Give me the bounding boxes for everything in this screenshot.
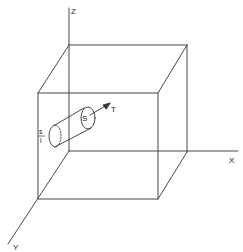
box-edge-bottom-right — [158, 152, 187, 199]
cylinder-near-end-hidden — [55, 125, 61, 147]
t-vector-label: T — [111, 105, 116, 114]
z-axis-label: Z — [71, 7, 76, 16]
side-label-bottom: l — [40, 137, 42, 144]
y-axis-label: Y — [13, 243, 19, 252]
side-label-top: s — [39, 128, 43, 135]
cylinder — [49, 107, 95, 147]
cylinder-near-end — [49, 125, 55, 147]
t-vector-arrowhead — [103, 103, 110, 109]
box-edge-top-left — [38, 45, 69, 93]
box-edge-top-right — [158, 45, 187, 93]
diagram-canvas: Z X Y S T s l — [0, 0, 243, 252]
x-axis-label: X — [229, 156, 235, 165]
cylinder-end-label: S — [82, 114, 87, 123]
cylinder-bottom-edge — [55, 128, 91, 147]
cylinder-top-edge — [55, 108, 84, 125]
y-axis — [8, 151, 69, 244]
